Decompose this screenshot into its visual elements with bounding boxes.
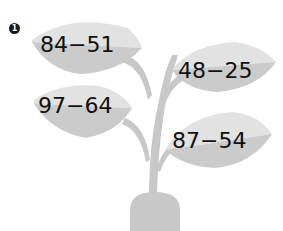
leaf-expression-bottom-right: 87−54 (172, 130, 246, 152)
stem-branch-left-top (122, 55, 152, 100)
leaf-expression-top-left: 84−51 (40, 34, 114, 56)
stem-branch-left-mid (122, 118, 150, 162)
problem-number-badge: 1 (9, 23, 20, 34)
root-ball (130, 192, 180, 231)
plant-subtraction-exercise: 1 84−51 48−25 97−64 87−54 (0, 0, 283, 231)
leaf-expression-mid-left: 97−64 (38, 95, 112, 117)
leaf-expression-top-right: 48−25 (178, 60, 252, 82)
